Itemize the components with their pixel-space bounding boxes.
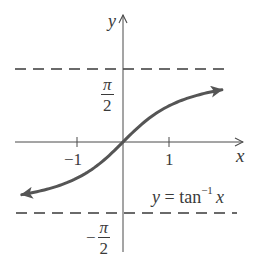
arctan-plot xyxy=(0,0,258,266)
pi-numerator: π xyxy=(98,219,111,238)
y-label-pi-over-2: π 2 xyxy=(101,76,114,114)
y-label-neg-pi-over-2: − π 2 xyxy=(86,219,110,257)
func-var: x xyxy=(216,187,224,207)
x-axis-label: x xyxy=(236,146,244,165)
pi-numerator: π xyxy=(101,76,114,95)
func-superscript: −1 xyxy=(201,184,213,196)
x-tick-label-neg1: −1 xyxy=(64,151,82,168)
neg-pi-fraction: π 2 xyxy=(98,219,111,257)
func-y: y xyxy=(152,187,160,207)
func-prefix-rest: = tan xyxy=(160,187,201,207)
x-tick-label-pos1: 1 xyxy=(165,151,174,168)
function-label: y = tan−1x xyxy=(152,188,224,206)
pi-denominator: 2 xyxy=(100,238,109,257)
y-axis-label: y xyxy=(108,12,116,30)
minus-sign: − xyxy=(86,228,96,248)
pi-denominator: 2 xyxy=(103,95,112,114)
